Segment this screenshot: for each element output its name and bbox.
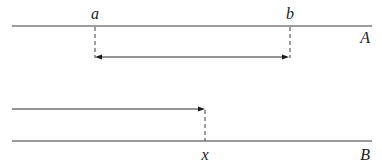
line-label-a: A — [359, 29, 370, 46]
point-label-x: x — [200, 146, 208, 163]
arrowhead-right-icon — [282, 55, 289, 60]
interval-diagram: a b A x B — [0, 0, 382, 166]
interval-arrow-ab — [95, 55, 289, 60]
line-b-group: x B — [12, 107, 372, 164]
arrowhead-right-icon — [198, 107, 205, 112]
line-a-group: a b A — [12, 5, 372, 60]
arrowhead-left-icon — [95, 55, 102, 60]
interval-arrow-x — [12, 107, 205, 112]
point-label-a: a — [91, 5, 99, 22]
line-label-b: B — [360, 146, 370, 163]
point-label-b: b — [286, 5, 294, 22]
